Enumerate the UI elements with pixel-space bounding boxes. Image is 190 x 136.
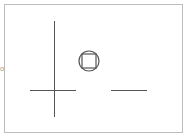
drawing-svg: [0, 0, 190, 136]
drawing-canvas[interactable]: o: [0, 0, 190, 136]
side-marker: o: [0, 66, 4, 73]
